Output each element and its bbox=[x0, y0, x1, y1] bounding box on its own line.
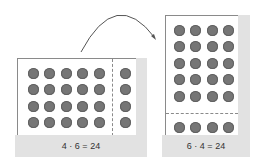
counter-dot bbox=[120, 117, 131, 128]
counter-dot bbox=[190, 25, 201, 36]
counter-dot bbox=[190, 74, 201, 85]
left-array-equation: 4 · 6 = 24 bbox=[15, 135, 147, 157]
right-array-equation: 6 · 4 = 24 bbox=[162, 135, 250, 157]
counter-dot bbox=[207, 25, 218, 36]
counter-dot bbox=[61, 101, 72, 112]
counter-dot bbox=[174, 122, 185, 133]
counter-dot bbox=[61, 117, 72, 128]
counter-dot bbox=[120, 68, 131, 79]
counter-dot bbox=[28, 117, 39, 128]
counter-dot bbox=[190, 91, 201, 102]
counter-dot bbox=[207, 58, 218, 69]
counter-dot bbox=[223, 91, 234, 102]
counter-dot bbox=[223, 25, 234, 36]
right-array-divider bbox=[166, 113, 238, 114]
counter-dot bbox=[77, 101, 88, 112]
counter-dot bbox=[94, 101, 105, 112]
counter-dot bbox=[120, 84, 131, 95]
counter-dot bbox=[207, 122, 218, 133]
counter-dot bbox=[44, 84, 55, 95]
counter-dot bbox=[207, 91, 218, 102]
counter-dot bbox=[77, 84, 88, 95]
counter-dot bbox=[174, 41, 185, 52]
counter-dot bbox=[61, 84, 72, 95]
counter-dot bbox=[77, 68, 88, 79]
counter-dot bbox=[94, 117, 105, 128]
counter-dot bbox=[94, 84, 105, 95]
counter-dot bbox=[61, 68, 72, 79]
counter-dot bbox=[28, 68, 39, 79]
counter-dot bbox=[77, 117, 88, 128]
counter-dot bbox=[207, 74, 218, 85]
counter-dot bbox=[223, 122, 234, 133]
counter-dot bbox=[44, 117, 55, 128]
counter-dot bbox=[207, 41, 218, 52]
counter-dot bbox=[174, 58, 185, 69]
counter-dot bbox=[28, 84, 39, 95]
counter-dot bbox=[190, 122, 201, 133]
counter-dot bbox=[174, 91, 185, 102]
counter-dot bbox=[190, 58, 201, 69]
counter-dot bbox=[223, 41, 234, 52]
counter-dot bbox=[190, 41, 201, 52]
counter-dot bbox=[120, 101, 131, 112]
counter-dot bbox=[44, 101, 55, 112]
counter-dot bbox=[28, 101, 39, 112]
left-array-divider bbox=[112, 59, 113, 136]
counter-dot bbox=[94, 68, 105, 79]
counter-dot bbox=[223, 74, 234, 85]
counter-dot bbox=[174, 25, 185, 36]
counter-dot bbox=[44, 68, 55, 79]
counter-dot bbox=[223, 58, 234, 69]
counter-dot bbox=[174, 74, 185, 85]
